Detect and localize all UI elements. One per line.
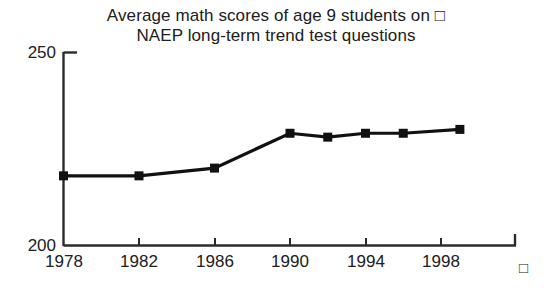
x-axis-label-1990: 1990	[254, 252, 326, 271]
data-point-marker	[286, 129, 295, 138]
data-point-marker	[361, 129, 370, 138]
data-point-marker	[455, 125, 464, 134]
x-axis-label-1982: 1982	[103, 252, 175, 271]
data-point-marker	[323, 133, 332, 142]
data-point-marker	[210, 164, 219, 173]
y-axis-label-250: 250	[8, 43, 56, 62]
chart-figure: Average math scores of age 9 students on…	[0, 0, 552, 292]
data-point-marker	[399, 129, 408, 138]
x-axis-label-1978: 1978	[28, 252, 100, 271]
data-point-marker	[59, 171, 68, 180]
x-axis-label-1998: 1998	[405, 252, 477, 271]
axis-end-box-glyph: □	[519, 260, 528, 276]
data-point-marker	[135, 171, 144, 180]
chart-plot-area	[0, 0, 552, 292]
x-axis-label-1994: 1994	[330, 252, 402, 271]
x-axis-label-1986: 1986	[179, 252, 251, 271]
data-markers-series-1	[59, 125, 464, 180]
